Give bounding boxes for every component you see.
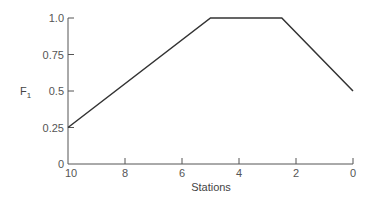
x-tick-label: 0 (350, 167, 356, 179)
x-tick-label: 4 (236, 167, 242, 179)
y-axis-label: F1 (20, 85, 32, 100)
y-tick-label: 0.75 (43, 49, 64, 61)
y-tick-label: 0.25 (43, 122, 64, 134)
x-tick-label: 10 (65, 167, 77, 179)
data-lines (68, 18, 353, 128)
x-tick-label: 2 (293, 167, 299, 179)
x-tick-label: 6 (179, 167, 185, 179)
y-tick-label: 0 (58, 158, 64, 170)
ticks: 00.250.50.751.01086420 (43, 12, 356, 179)
y-axis-label-subscript: 1 (27, 91, 32, 100)
y-tick-label: 1.0 (49, 12, 64, 24)
series-line (68, 18, 353, 128)
x-axis-label: Stations (191, 181, 231, 193)
chart: 00.250.50.751.01086420 F1 Stations (0, 0, 374, 204)
y-tick-label: 0.5 (49, 85, 64, 97)
axes (68, 18, 353, 164)
x-tick-label: 8 (122, 167, 128, 179)
